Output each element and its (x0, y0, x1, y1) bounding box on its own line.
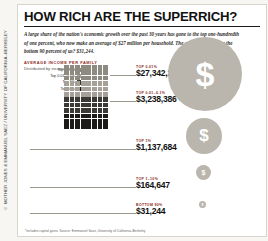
matrix-cell (81, 119, 86, 124)
matrix-cell (64, 87, 69, 92)
matrix-cell (64, 81, 69, 86)
matrix-cell (92, 76, 97, 81)
matrix-cell (92, 81, 97, 86)
matrix-cell (75, 70, 80, 75)
matrix-cell (75, 124, 80, 129)
matrix-cell (75, 114, 80, 119)
amount-block-top1-10: TOP 1–10% $164,647 (136, 177, 170, 190)
leader-line (30, 149, 136, 150)
matrix-cell (64, 114, 69, 119)
matrix-cell (103, 108, 108, 113)
page-title: HOW RICH ARE THE SUPERRICH? (24, 10, 260, 24)
matrix-cell (103, 65, 108, 70)
matrix-cell (70, 65, 75, 70)
side-credit: © MOTHER JONES & EMMANUEL SAEZ / UNIVERS… (0, 0, 10, 241)
matrix-cell (70, 81, 75, 86)
amount-value: $31,244 (136, 207, 165, 216)
amount-block-bottom90: BOTTOM 90% $31,244 (136, 203, 165, 216)
matrix-cell (86, 65, 91, 70)
matrix-cell (86, 76, 91, 81)
matrix-cell (86, 124, 91, 129)
matrix-cell (81, 92, 86, 97)
matrix-cell (98, 114, 103, 119)
matrix-cell (86, 119, 91, 124)
footer-credit: *includes capital gains. Source: Emmanue… (25, 229, 145, 233)
matrix-cell (81, 65, 86, 70)
matrix-cell (64, 70, 69, 75)
matrix-cell (103, 124, 108, 129)
bubble-top1-10: $ (196, 165, 211, 180)
matrix-cell (81, 97, 86, 102)
amount-value: $3,238,386 (136, 95, 177, 104)
matrix-cell (86, 103, 91, 108)
matrix-cell (98, 124, 103, 129)
matrix-cell (64, 97, 69, 102)
matrix-cell (86, 81, 91, 86)
matrix-cell (70, 108, 75, 113)
matrix-cell (98, 70, 103, 75)
matrix-cell (75, 65, 80, 70)
matrix-cell (81, 70, 86, 75)
matrix-cell (64, 76, 69, 81)
amount-block-top001-01: TOP 0.01–0.1% $3,238,386 (136, 91, 177, 104)
matrix-cell (70, 76, 75, 81)
matrix-cell (64, 65, 69, 70)
leader-line (110, 101, 136, 102)
matrix-cell (103, 92, 108, 97)
matrix-cell (92, 108, 97, 113)
matrix-cell (75, 103, 80, 108)
matrix-cell (81, 81, 86, 86)
matrix-cell (98, 119, 103, 124)
matrix-cell (103, 81, 108, 86)
matrix-cell (70, 114, 75, 119)
matrix-cell (86, 87, 91, 92)
matrix-cell (92, 119, 97, 124)
matrix-cell (81, 108, 86, 113)
matrix-cell (70, 97, 75, 102)
matrix-cell (86, 92, 91, 97)
matrix-cell (75, 108, 80, 113)
matrix-cell (98, 97, 103, 102)
matrix-cell (103, 76, 108, 81)
matrix-cell (103, 119, 108, 124)
matrix-cell (64, 119, 69, 124)
matrix-cell (81, 87, 86, 92)
population-matrix (64, 65, 108, 129)
matrix-cell (92, 124, 97, 129)
title-divider (24, 26, 260, 27)
infographic-card: HOW RICH ARE THE SUPERRICH? A large shar… (17, 4, 267, 237)
matrix-cell (75, 92, 80, 97)
matrix-cell (98, 76, 103, 81)
matrix-cell (98, 108, 103, 113)
matrix-cell (81, 103, 86, 108)
infographic-page: © MOTHER JONES & EMMANUEL SAEZ / UNIVERS… (0, 0, 268, 241)
matrix-cell (92, 65, 97, 70)
bubble-top001: $ (168, 37, 242, 111)
matrix-cell (70, 92, 75, 97)
matrix-cell (64, 103, 69, 108)
amount-block-top1: TOP 1% $1,137,684 (136, 139, 177, 152)
bubble-bottom90: $ (199, 201, 206, 208)
matrix-cell (81, 114, 86, 119)
matrix-cell (86, 97, 91, 102)
matrix-cell (92, 70, 97, 75)
leader-line (30, 213, 136, 214)
matrix-cell (64, 108, 69, 113)
matrix-cell (92, 103, 97, 108)
amount-value: $1,137,684 (136, 143, 177, 152)
matrix-cell (64, 92, 69, 97)
matrix-cell (81, 124, 86, 129)
matrix-cell (92, 92, 97, 97)
matrix-cell (103, 70, 108, 75)
matrix-cell (70, 124, 75, 129)
matrix-cell (92, 87, 97, 92)
matrix-cell (75, 97, 80, 102)
matrix-cell (103, 114, 108, 119)
matrix-cell (98, 92, 103, 97)
bubble-top1: $ (186, 118, 222, 154)
matrix-cell (86, 108, 91, 113)
amount-value: $164,647 (136, 181, 170, 190)
matrix-cell (86, 70, 91, 75)
matrix-cell (98, 87, 103, 92)
matrix-cell (103, 97, 108, 102)
